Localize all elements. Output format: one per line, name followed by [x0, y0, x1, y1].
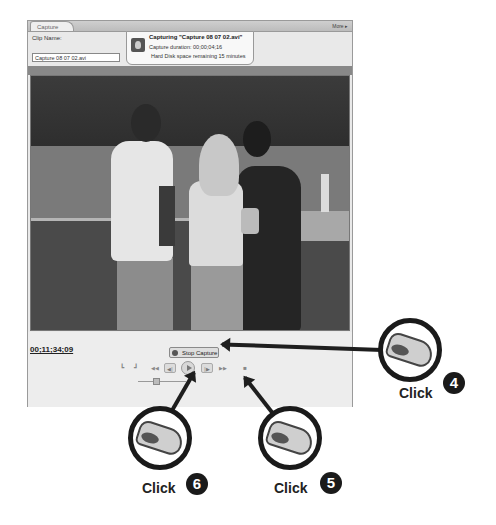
video-background-trees [31, 76, 349, 146]
capture-status-title: Capturing "Capture 08 07 02.avi" [149, 34, 242, 40]
capture-camera-icon [131, 38, 145, 52]
tab-capture[interactable]: Capture [30, 21, 74, 31]
shuttle-slider-thumb[interactable] [153, 378, 160, 385]
video-path [301, 211, 350, 241]
set-out-point-button[interactable]: ┛ [130, 363, 142, 373]
step-back-button[interactable]: ◀| [164, 363, 176, 373]
hand-click-callout-step-6 [128, 406, 192, 470]
step-badge-6: 6 [186, 473, 208, 495]
stop-capture-button[interactable]: Stop Capture [169, 347, 219, 358]
record-icon [172, 350, 178, 356]
person-middle-bag [241, 208, 259, 234]
disk-space-remaining: Hard Disk space remaining 15 minutes [151, 53, 245, 59]
stop-capture-label: Stop Capture [182, 350, 217, 356]
capture-status-box: Capturing "Capture 08 07 02.avi" Capture… [126, 31, 254, 65]
person-middle-legs [191, 261, 243, 331]
set-in-point-button[interactable]: ┗ [116, 363, 128, 373]
person-left-head [131, 104, 161, 142]
timecode[interactable]: 00;11;34;09 [30, 345, 73, 354]
person-right-body [237, 166, 301, 331]
click-label-step-4: Click [399, 385, 432, 401]
person-right-head [243, 121, 271, 157]
clip-name-input[interactable]: Capture 08 07 02.avi [32, 53, 120, 62]
person-middle-hair [199, 134, 239, 196]
step-badge-4: 4 [443, 372, 465, 394]
step-forward-button[interactable]: |▶ [201, 363, 213, 373]
video-preview [30, 75, 350, 331]
fast-forward-button[interactable]: ▶▶ [216, 363, 230, 373]
rewind-button[interactable]: ◀◀ [148, 363, 162, 373]
person-left-legs [117, 258, 173, 331]
person-left-arm [159, 186, 175, 246]
divider-band [28, 66, 352, 75]
video-post [321, 174, 329, 212]
hand-click-callout-step-5 [258, 406, 322, 470]
click-label-step-6: Click [142, 480, 175, 496]
shuttle-slider-track[interactable] [138, 381, 186, 382]
capture-duration: Capture duration: 00;00;04;16 [149, 44, 222, 50]
step-badge-5: 5 [320, 472, 342, 494]
clip-name-label: Clip Name: [32, 35, 62, 41]
click-label-step-5: Click [274, 480, 307, 496]
hand-click-callout-step-4 [378, 318, 442, 382]
more-menu-button[interactable]: More ▸ [332, 22, 348, 30]
